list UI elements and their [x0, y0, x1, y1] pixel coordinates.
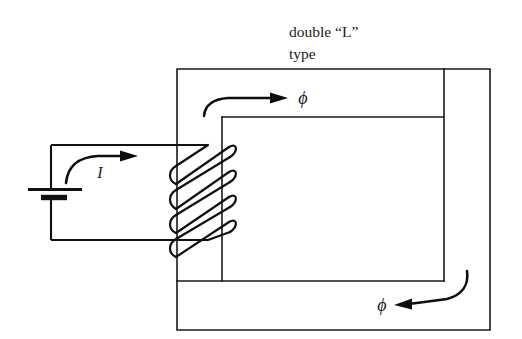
flux-arrow-bottom — [394, 271, 467, 310]
dc-battery-symbol — [28, 190, 82, 198]
magnetic-circuit-diagram: I ϕ ϕ double “L” type — [0, 0, 522, 339]
flux-label-bottom: ϕ — [377, 295, 386, 315]
diagram-canvas: I ϕ ϕ double “L” type — [0, 0, 522, 339]
flux-arrow-top — [204, 93, 288, 117]
flux-label-top: ϕ — [298, 88, 307, 108]
core-type-label-line1: double “L” — [289, 23, 358, 40]
current-label: I — [96, 164, 103, 181]
core-type-label-line2: type — [289, 45, 316, 62]
